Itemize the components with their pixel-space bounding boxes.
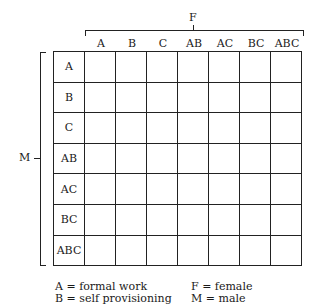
cell bbox=[209, 204, 240, 235]
matrix-grid: A B C AB AC BC ABC bbox=[53, 51, 302, 266]
cell bbox=[240, 143, 271, 174]
cell bbox=[116, 235, 147, 266]
cell bbox=[178, 143, 209, 174]
row-header-c: C bbox=[54, 113, 85, 144]
cell bbox=[85, 235, 116, 266]
cell bbox=[178, 82, 209, 113]
column-header-a: A bbox=[91, 37, 111, 50]
cell bbox=[116, 113, 147, 144]
legend-item-m: M = male bbox=[191, 293, 252, 305]
cell bbox=[116, 52, 147, 83]
cell bbox=[209, 235, 240, 266]
male-axis-title: M bbox=[19, 151, 30, 164]
cell bbox=[240, 52, 271, 83]
cell bbox=[209, 113, 240, 144]
matrix-row: A bbox=[54, 52, 302, 83]
column-header-c: C bbox=[153, 37, 173, 50]
cell bbox=[178, 235, 209, 266]
legend-right: F = female M = male bbox=[191, 281, 252, 305]
cell bbox=[271, 82, 302, 113]
cell bbox=[209, 82, 240, 113]
cell bbox=[271, 235, 302, 266]
matrix-row: AC bbox=[54, 174, 302, 205]
cell bbox=[147, 143, 178, 174]
row-header-bc: BC bbox=[54, 204, 85, 235]
row-header-ab: AB bbox=[54, 143, 85, 174]
male-axis-bracket bbox=[40, 52, 46, 266]
matrix-row: ABC bbox=[54, 235, 302, 266]
cell bbox=[271, 113, 302, 144]
cell bbox=[85, 174, 116, 205]
cell bbox=[116, 82, 147, 113]
cell bbox=[240, 204, 271, 235]
cell bbox=[147, 52, 178, 83]
cell bbox=[240, 82, 271, 113]
cell bbox=[271, 174, 302, 205]
cell bbox=[209, 143, 240, 174]
matrix-row: C bbox=[54, 113, 302, 144]
cell bbox=[147, 113, 178, 144]
column-header-ac: AC bbox=[215, 37, 235, 50]
cell bbox=[85, 52, 116, 83]
column-header-bc: BC bbox=[246, 37, 266, 50]
cell bbox=[240, 174, 271, 205]
row-header-ac: AC bbox=[54, 174, 85, 205]
cell bbox=[147, 174, 178, 205]
cell bbox=[147, 235, 178, 266]
matrix-row: AB bbox=[54, 143, 302, 174]
cell bbox=[271, 204, 302, 235]
cell bbox=[147, 204, 178, 235]
column-header-b: B bbox=[122, 37, 142, 50]
column-header-ab: AB bbox=[184, 37, 204, 50]
cell bbox=[178, 174, 209, 205]
matrix-row: BC bbox=[54, 204, 302, 235]
cell bbox=[240, 113, 271, 144]
cell bbox=[85, 143, 116, 174]
cell bbox=[116, 174, 147, 205]
legend-left: A = formal work B = self provisioning bbox=[55, 281, 172, 305]
cell bbox=[209, 52, 240, 83]
cell bbox=[178, 113, 209, 144]
cell bbox=[85, 113, 116, 144]
legend-item-b: B = self provisioning bbox=[55, 293, 172, 305]
cell bbox=[240, 235, 271, 266]
row-header-abc: ABC bbox=[54, 235, 85, 266]
row-header-b: B bbox=[54, 82, 85, 113]
cell bbox=[178, 204, 209, 235]
row-header-a: A bbox=[54, 52, 85, 83]
cell bbox=[271, 143, 302, 174]
female-axis-bracket bbox=[85, 30, 304, 36]
cell bbox=[209, 174, 240, 205]
cell bbox=[116, 143, 147, 174]
cell bbox=[147, 82, 178, 113]
cell bbox=[178, 52, 209, 83]
column-header-abc: ABC bbox=[274, 37, 300, 50]
matrix-row: B bbox=[54, 82, 302, 113]
cell bbox=[85, 82, 116, 113]
cell bbox=[271, 52, 302, 83]
cell bbox=[116, 204, 147, 235]
cell bbox=[85, 204, 116, 235]
female-axis-title: F bbox=[189, 11, 197, 24]
